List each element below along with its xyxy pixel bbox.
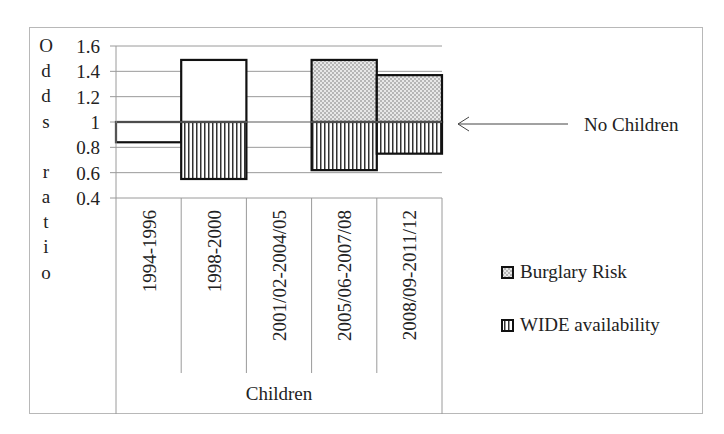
legend-swatch-wide-availability <box>502 320 513 331</box>
y-axis-label-letter: d <box>41 60 51 81</box>
y-tick-label: 1 <box>91 112 101 133</box>
x-group-label: Children <box>246 383 313 404</box>
y-axis-label-letter: o <box>41 262 51 283</box>
y-tick-label: 0.8 <box>76 137 100 158</box>
bar-wide-availability <box>181 122 246 179</box>
y-axis-label-letter: i <box>43 236 48 257</box>
bars <box>116 60 442 179</box>
y-tick-label: 1.4 <box>76 61 100 82</box>
bar-burglary-risk <box>181 60 246 122</box>
y-axis-label-letter: t <box>43 211 49 232</box>
category-label: 2001/02-2004/05 <box>269 210 290 341</box>
odds-ratio-chart: 1.61.41.210.80.60.41994-19961998-2000200… <box>0 0 724 434</box>
bar-wide-availability <box>312 122 377 170</box>
bar-burglary-risk <box>377 75 442 122</box>
legend-label: WIDE availability <box>520 314 660 335</box>
y-axis-label-letter: O <box>39 35 53 56</box>
category-label: 2008/09-2011/12 <box>399 210 420 340</box>
y-axis-label-letter: a <box>42 186 51 207</box>
legend-label: Burglary Risk <box>520 261 627 282</box>
y-tick-label: 0.4 <box>76 188 100 209</box>
y-axis-label-letter: s <box>42 111 49 132</box>
bar-wide-availability <box>377 122 442 154</box>
bar-burglary-risk <box>312 60 377 122</box>
y-axis-label-letter: r <box>43 161 50 182</box>
y-tick-label: 1.6 <box>76 36 100 57</box>
y-tick-label: 1.2 <box>76 87 100 108</box>
category-label: 2005/06-2007/08 <box>334 210 355 341</box>
y-tick-label: 0.6 <box>76 163 100 184</box>
bar-burglary-risk <box>116 122 181 142</box>
legend-swatch-burglary-risk <box>502 267 513 278</box>
category-label: 1994-1996 <box>139 210 160 292</box>
category-label: 1998-2000 <box>204 210 225 292</box>
y-axis-label-letter: d <box>41 85 51 106</box>
annotation-no-children: No Children <box>584 114 679 135</box>
